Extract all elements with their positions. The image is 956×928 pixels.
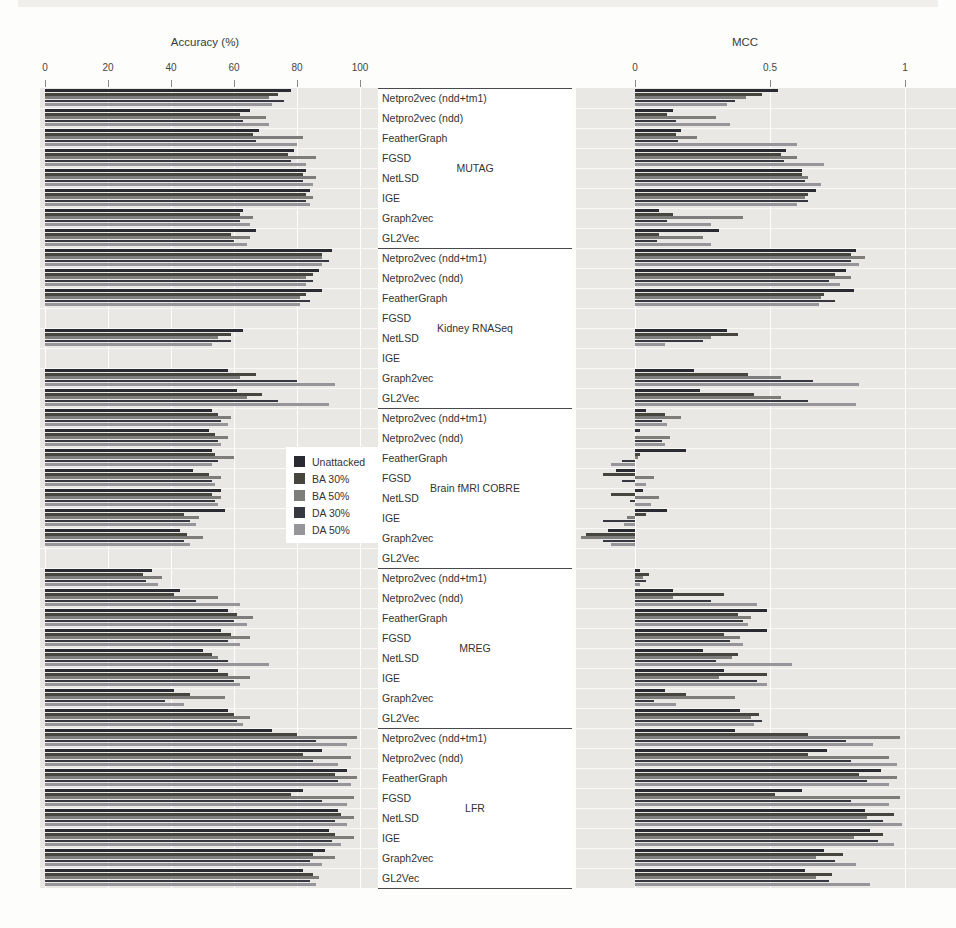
dataset-label: MUTAG — [378, 162, 572, 174]
bar-mcc-mreg-graph2vec-da-50- — [635, 703, 676, 706]
bar-mcc-lfr-graph2vec-da-50- — [635, 863, 856, 866]
bar-accuracy-mutag-fgsd-da-50- — [45, 163, 306, 166]
legend-swatch-icon — [294, 524, 305, 535]
legend-swatch-icon — [294, 473, 305, 484]
bar-accuracy-mreg-ige-da-50- — [45, 683, 240, 686]
bar-mcc-mreg-netpro2vec-ndd--da-50- — [635, 603, 757, 606]
legend-label: DA 30% — [312, 507, 350, 519]
bar-accuracy-brain-fmri-cobre-feathergraph-da-50- — [45, 463, 212, 466]
bar-accuracy-lfr-fgsd-da-50- — [45, 803, 347, 806]
dataset-label: MREG — [378, 642, 572, 654]
row-gridline — [576, 448, 956, 449]
bar-mcc-mutag-ige-da-50- — [635, 203, 797, 206]
method-label: FeatherGraph — [382, 768, 532, 788]
bar-mcc-kidney-rnaseq-netlsd-da-50- — [635, 343, 665, 346]
bar-mcc-lfr-ige-da-50- — [635, 843, 894, 846]
bar-accuracy-kidney-rnaseq-feathergraph-da-50- — [45, 303, 300, 306]
bar-accuracy-mreg-graph2vec-da-50- — [45, 703, 184, 706]
bar-accuracy-mreg-fgsd-da-50- — [45, 643, 240, 646]
method-label: GL2Vec — [382, 228, 532, 248]
bar-mcc-brain-fmri-cobre-feathergraph-ba-50- — [635, 456, 638, 459]
axis-tick-mark — [905, 80, 906, 87]
page-edge-artifact — [18, 0, 938, 7]
bar-accuracy-kidney-rnaseq-gl2vec-da-50- — [45, 403, 329, 406]
axis-tick-mark — [171, 80, 172, 87]
bar-mcc-lfr-netpro2vec-ndd--da-50- — [635, 763, 897, 766]
method-label: Graph2vec — [382, 688, 532, 708]
bar-accuracy-mreg-netpro2vec-ndd--da-50- — [45, 603, 240, 606]
bar-accuracy-mreg-netpro2vec-ndd-tm1--da-50- — [45, 583, 158, 586]
legend-item: DA 50% — [294, 521, 379, 538]
axis-tick-mark — [234, 80, 235, 87]
bar-accuracy-brain-fmri-cobre-fgsd-da-50- — [45, 483, 215, 486]
axis-tick-mark — [108, 80, 109, 87]
bar-accuracy-lfr-gl2vec-da-50- — [45, 883, 316, 886]
bar-mcc-mreg-gl2vec-da-50- — [635, 723, 754, 726]
axis-tick-label: 0 — [632, 62, 638, 73]
axis-tick-label: 40 — [165, 62, 176, 73]
mcc-plot-area — [576, 88, 956, 888]
method-label: Netpro2vec (ndd+tm1) — [382, 88, 532, 108]
bar-accuracy-lfr-netlsd-da-50- — [45, 823, 347, 826]
method-label: GL2Vec — [382, 388, 532, 408]
bar-accuracy-kidney-rnaseq-netpro2vec-ndd-tm1--da-50- — [45, 263, 322, 266]
bar-accuracy-kidney-rnaseq-netlsd-da-50- — [45, 343, 212, 346]
bar-mcc-kidney-rnaseq-feathergraph-da-50- — [635, 303, 819, 306]
axis-tick-label: 20 — [102, 62, 113, 73]
method-label: Netpro2vec (ndd) — [382, 588, 532, 608]
dataset-label: Kidney RNASeq — [378, 322, 572, 334]
axis-tick-mark — [770, 80, 771, 87]
bar-mcc-brain-fmri-cobre-netlsd-da-50- — [635, 503, 651, 506]
row-gridline — [576, 548, 956, 549]
bar-mcc-lfr-feathergraph-da-50- — [635, 783, 889, 786]
bar-accuracy-lfr-graph2vec-da-50- — [45, 863, 322, 866]
bar-mcc-mreg-fgsd-da-50- — [635, 643, 743, 646]
bar-mcc-brain-fmri-cobre-netlsd-ba-30- — [611, 493, 635, 496]
bar-accuracy-mutag-graph2vec-da-50- — [45, 223, 250, 226]
row-gridline — [40, 308, 378, 309]
bar-accuracy-brain-fmri-cobre-netpro2vec-ndd--da-50- — [45, 443, 221, 446]
bar-accuracy-mutag-feathergraph-da-50- — [45, 143, 297, 146]
bar-mcc-brain-fmri-cobre-netpro2vec-ndd-tm1--da-50- — [635, 423, 667, 426]
bar-mcc-mreg-netlsd-da-50- — [635, 663, 792, 666]
method-label: GL2Vec — [382, 548, 532, 568]
method-label: Netpro2vec (ndd+tm1) — [382, 408, 532, 428]
bar-mcc-lfr-netlsd-da-50- — [635, 823, 902, 826]
method-label: Netpro2vec (ndd) — [382, 108, 532, 128]
bar-mcc-brain-fmri-cobre-netlsd-ba-50- — [635, 496, 659, 499]
bar-accuracy-brain-fmri-cobre-graph2vec-da-50- — [45, 543, 190, 546]
row-gridline — [576, 708, 956, 709]
legend-label: DA 50% — [312, 524, 350, 536]
row-gridline — [576, 388, 956, 389]
bar-mcc-kidney-rnaseq-gl2vec-da-50- — [635, 403, 856, 406]
bar-accuracy-mutag-netpro2vec-ndd-tm1--da-50- — [45, 103, 272, 106]
axis-tick-mark — [297, 80, 298, 87]
bar-accuracy-lfr-ige-da-50- — [45, 843, 341, 846]
bar-accuracy-mutag-netlsd-da-50- — [45, 183, 313, 186]
method-label: Netpro2vec (ndd) — [382, 748, 532, 768]
bar-mcc-kidney-rnaseq-netpro2vec-ndd--da-50- — [635, 283, 840, 286]
bar-mcc-mreg-feathergraph-da-50- — [635, 623, 748, 626]
bar-accuracy-mutag-netpro2vec-ndd--da-50- — [45, 123, 269, 126]
method-label: Netpro2vec (ndd+tm1) — [382, 568, 532, 588]
bar-mcc-mutag-netpro2vec-ndd-tm1--da-50- — [635, 103, 727, 106]
bar-accuracy-lfr-netpro2vec-ndd-tm1--da-50- — [45, 743, 347, 746]
bar-accuracy-mutag-gl2vec-da-50- — [45, 243, 247, 246]
method-label: GL2Vec — [382, 868, 532, 888]
bar-accuracy-mreg-gl2vec-da-50- — [45, 723, 243, 726]
bar-mcc-kidney-rnaseq-netpro2vec-ndd-tm1--da-50- — [635, 263, 859, 266]
legend-label: Unattacked — [312, 456, 365, 468]
method-label: Graph2vec — [382, 208, 532, 228]
axis-tick-label: 1 — [902, 62, 908, 73]
bar-accuracy-mreg-netlsd-da-50- — [45, 663, 269, 666]
bar-mcc-brain-fmri-cobre-feathergraph-da-50- — [611, 463, 635, 466]
row-gridline — [576, 648, 956, 649]
method-label: IGE — [382, 188, 532, 208]
legend-item: BA 50% — [294, 487, 379, 504]
method-label: FeatherGraph — [382, 608, 532, 628]
legend-item: Unattacked — [294, 453, 379, 470]
bar-accuracy-brain-fmri-cobre-netlsd-da-50- — [45, 503, 218, 506]
bar-accuracy-lfr-feathergraph-da-50- — [45, 783, 351, 786]
dataset-label: Brain fMRI COBRE — [378, 482, 572, 494]
row-gridline — [576, 568, 956, 569]
